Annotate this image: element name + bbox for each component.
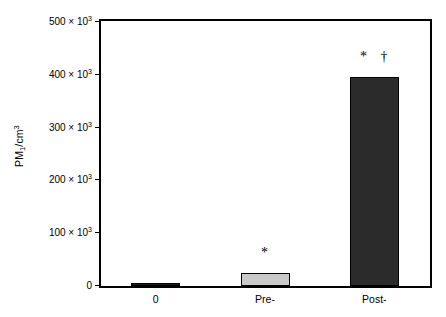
y-axis-tick-label: 0 [86,280,92,291]
y-axis-tick-label: 100 × 103 [49,227,92,238]
y-axis-tick-mark [95,285,101,286]
y-axis-title-superscript: 3 [12,125,21,129]
bar-pre [241,273,290,286]
y-axis-tick-label-mantissa: 400 × 10 [49,68,88,79]
y-axis-tick-label-exponent: 3 [88,120,92,127]
y-axis-tick-label: 200 × 103 [49,174,92,185]
y-axis-tick-label-mantissa: 100 × 10 [49,227,88,238]
y-axis-tick-label-mantissa: 500 × 10 [49,16,88,27]
y-axis-tick-mark [95,74,101,75]
y-axis-tick-mark [95,127,101,128]
y-axis-tick-mark [95,232,101,233]
chart-figure: PM1/cm3 0100 × 103200 × 103300 × 103400 … [0,0,446,317]
y-axis-tick-label: 300 × 103 [49,121,92,132]
y-axis-tick-label-exponent: 3 [88,15,92,22]
bar-0 [131,283,180,286]
y-axis-tick-mark [95,179,101,180]
x-axis-tick-label: Pre- [255,293,275,305]
y-axis-tick-mark [95,21,101,22]
x-axis-tick-label: Post- [362,293,387,305]
y-axis-tick-label: 500 × 103 [49,16,92,27]
bar-post [350,77,399,286]
y-axis-tick-label-exponent: 3 [88,226,92,233]
y-axis-tick-label-exponent: 3 [88,67,92,74]
x-axis-tick-label: 0 [153,293,159,305]
plot-area: 0100 × 103200 × 103300 × 103400 × 103500… [99,19,432,288]
y-axis-title: PM1/cm3 [13,111,25,181]
plot-inner: 0100 × 103200 × 103300 × 103400 × 103500… [101,21,430,286]
y-axis-title-subscript: 1 [18,147,27,151]
significance-annotation: * [261,246,273,260]
y-axis-tick-label-mantissa: 200 × 10 [49,174,88,185]
significance-annotation: * † [360,50,393,64]
y-axis-title-container: PM1/cm3 [8,0,30,317]
y-axis-tick-label-mantissa: 300 × 10 [49,121,88,132]
y-axis-tick-label-exponent: 3 [88,173,92,180]
y-axis-tick-label: 400 × 103 [49,68,92,79]
